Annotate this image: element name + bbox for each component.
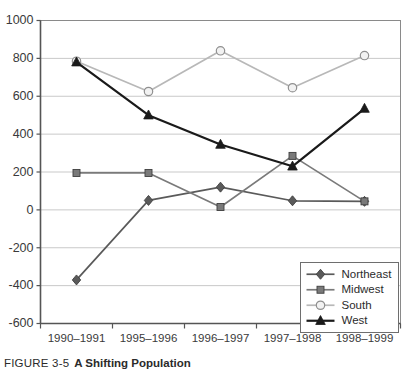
data-point-marker	[144, 110, 154, 119]
data-point-marker	[145, 169, 152, 176]
data-point-marker	[317, 286, 324, 293]
y-tick-label: 200	[13, 165, 34, 179]
data-point-marker	[217, 204, 224, 211]
data-point-marker	[216, 182, 224, 192]
figure-container: 10008006004002000-200-400-600 1990–19911…	[0, 0, 412, 381]
gridlines-group	[41, 21, 401, 286]
data-point-marker	[144, 87, 152, 95]
line-chart-svg: 10008006004002000-200-400-600 1990–19911…	[0, 0, 412, 350]
legend-label-west: West	[342, 314, 369, 326]
y-tick-label: -200	[8, 241, 33, 255]
y-tick-label: 800	[13, 51, 34, 65]
series-south	[72, 47, 368, 96]
data-point-marker	[73, 169, 80, 176]
data-point-marker	[360, 51, 368, 59]
y-tick-label: 600	[13, 89, 34, 103]
y-tick-label: 0	[27, 203, 34, 217]
data-point-marker	[288, 84, 296, 92]
data-point-marker	[361, 198, 368, 205]
series-line	[77, 51, 365, 92]
data-point-marker	[216, 47, 224, 55]
y-tick-label: -600	[8, 316, 33, 330]
x-tick-label: 1997–1998	[264, 332, 322, 344]
data-point-marker	[360, 103, 370, 112]
y-axis-tick-labels: 10008006004002000-200-400-600	[6, 13, 41, 330]
x-axis-tick-labels: 1990–19911995–19961996–19971997–19981998…	[48, 332, 394, 344]
y-tick-label: 1000	[6, 13, 34, 27]
chart-legend: NortheastMidwestSouthWest	[301, 263, 399, 333]
data-point-marker	[288, 196, 296, 206]
y-tick-label: -400	[8, 278, 33, 292]
caption-title: A Shifting Population	[74, 357, 190, 369]
x-tick-label: 1998–1999	[336, 332, 394, 344]
legend-label-midwest: Midwest	[342, 283, 385, 295]
x-tick-label: 1995–1996	[120, 332, 178, 344]
caption-number: FIGURE 3-5	[4, 357, 69, 369]
data-point-marker	[316, 301, 324, 309]
series-line	[77, 62, 365, 166]
x-tick-label: 1990–1991	[48, 332, 106, 344]
data-series-group	[72, 47, 370, 285]
chart-plot-area: 10008006004002000-200-400-600 1990–19911…	[0, 0, 412, 350]
legend-label-south: South	[342, 299, 372, 311]
data-point-marker	[289, 152, 296, 159]
x-tick-label: 1996–1997	[192, 332, 250, 344]
legend-label-northeast: Northeast	[342, 268, 393, 280]
y-tick-label: 400	[13, 127, 34, 141]
figure-caption: FIGURE 3-5A Shifting Population	[4, 356, 408, 371]
